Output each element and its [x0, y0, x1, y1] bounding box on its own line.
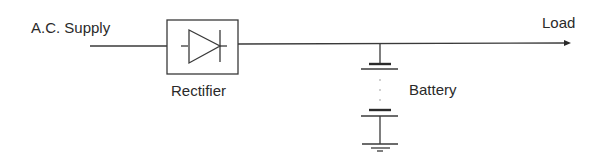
diode-icon — [181, 30, 227, 63]
battery-icon — [361, 44, 398, 144]
rectifier-box — [167, 20, 238, 74]
rectifier-block — [167, 20, 238, 74]
load-label: Load — [542, 14, 575, 31]
battery-label: Battery — [409, 81, 457, 98]
rectifier-battery-diagram: A.C. Supply Rectifier Load Battery — [0, 0, 603, 158]
rectifier-label: Rectifier — [171, 82, 226, 99]
arrow-right-icon — [564, 40, 571, 46]
output-wire — [238, 43, 565, 44]
ac-supply-label: A.C. Supply — [31, 19, 111, 36]
ground-icon — [362, 144, 398, 151]
